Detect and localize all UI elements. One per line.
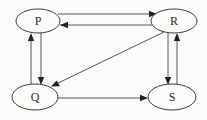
node-p[interactable]: P bbox=[16, 9, 60, 33]
edge-p-to-q bbox=[38, 32, 44, 85]
node-q[interactable]: Q bbox=[12, 84, 58, 110]
edge-q-to-s bbox=[57, 95, 148, 101]
node-r-label: R bbox=[170, 14, 178, 28]
node-r[interactable]: R bbox=[151, 9, 197, 33]
edge-r-to-s bbox=[165, 33, 171, 85]
graph-diagram: P R Q S bbox=[0, 0, 207, 120]
node-p-label: P bbox=[35, 14, 42, 28]
edge-r-to-q bbox=[51, 32, 164, 87]
edge-s-to-r bbox=[174, 33, 180, 86]
node-q-label: Q bbox=[31, 90, 40, 104]
edge-r-to-p bbox=[60, 22, 154, 28]
edge-p-to-r bbox=[58, 11, 157, 17]
node-s[interactable]: S bbox=[148, 84, 196, 110]
graph-canvas: P R Q S bbox=[0, 0, 207, 120]
edge-q-to-p bbox=[28, 33, 34, 86]
node-s-label: S bbox=[169, 90, 176, 104]
